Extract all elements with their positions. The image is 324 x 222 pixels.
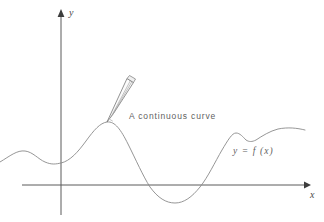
pencil-tip-line bbox=[110, 119, 113, 121]
pencil-edge-line-2 bbox=[113, 81, 132, 114]
x-axis-arrowhead bbox=[304, 181, 311, 188]
function-curve bbox=[0, 122, 305, 203]
y-axis-label: y bbox=[69, 7, 73, 18]
continuous-curve-figure: y x A continuous curve y = f (x) bbox=[0, 0, 324, 222]
y-axis-arrowhead bbox=[58, 9, 65, 17]
function-equation-label: y = f (x) bbox=[233, 146, 274, 156]
x-axis-label: x bbox=[310, 189, 314, 200]
pencil-edge-line bbox=[111, 81, 131, 118]
continuous-curve-caption: A continuous curve bbox=[129, 111, 216, 121]
